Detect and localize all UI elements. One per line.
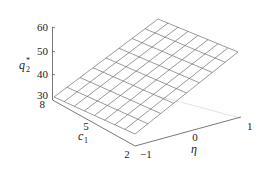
- c1-tick-5: 5: [83, 120, 89, 132]
- svg-text:*: *: [26, 56, 30, 65]
- svg-text:2: 2: [26, 65, 30, 74]
- c1-tick-8: 8: [40, 98, 46, 110]
- c1-tick-2: 2: [124, 148, 130, 160]
- eta-axis: −1 0 1 η: [135, 117, 253, 160]
- eta-tick-1: 1: [247, 120, 253, 132]
- mesh-line: [54, 97, 135, 134]
- surface-mesh: [54, 19, 238, 134]
- svg-text:q: q: [19, 58, 25, 72]
- surface-plot: 60 50 40 30 q 2 * 8 5 2 c 1 −1 0 1 η: [0, 0, 262, 169]
- eta-axis-label: η: [191, 142, 197, 156]
- z-tick-50: 50: [37, 45, 49, 57]
- z-axis-label: q 2 *: [19, 56, 30, 74]
- z-tick-60: 60: [37, 21, 49, 33]
- svg-text:1: 1: [84, 136, 88, 145]
- z-tick-40: 40: [37, 68, 49, 80]
- back-axis-line: [158, 96, 240, 118]
- z-axis: 60 50 40 30 q 2 *: [19, 21, 55, 101]
- eta-tick-minus1: −1: [140, 148, 152, 160]
